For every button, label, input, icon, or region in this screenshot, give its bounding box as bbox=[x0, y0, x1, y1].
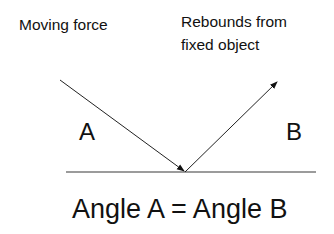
incoming-force-label: Moving force bbox=[19, 17, 108, 33]
rebound-label-line2: fixed object bbox=[181, 37, 259, 53]
reflected-ray-arrow bbox=[185, 82, 277, 172]
angle-b-label: B bbox=[286, 120, 302, 144]
equation-caption: Angle A = Angle B bbox=[72, 196, 287, 223]
rebound-label-line1: Rebounds from bbox=[181, 14, 287, 30]
angle-a-label: A bbox=[79, 120, 95, 144]
